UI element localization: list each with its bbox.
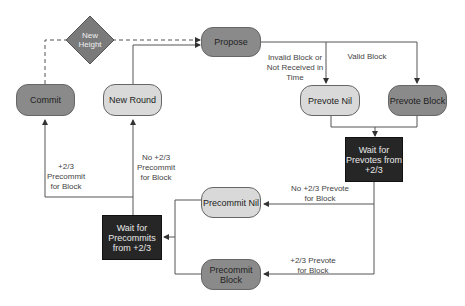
- label-invalid-block: Invalid Block or Not Received in Time: [258, 53, 332, 83]
- propose-node: Propose: [201, 27, 261, 57]
- prevote-block-node: Prevote Block: [388, 85, 447, 116]
- label-no-prevote: No +2/3 Prevote for Block: [282, 184, 358, 204]
- new-height-diamond: New Height: [66, 16, 114, 64]
- edge-commit-to-newheight: [45, 40, 68, 84]
- wait-prevotes-node: Wait for Prevotes from +2/3: [345, 137, 403, 182]
- prevote-nil-node: Prevote Nil: [300, 85, 360, 116]
- label-no-precommit: No +2/3 Precommit for Block: [134, 153, 178, 183]
- label-yes-prevote: +2/3 Prevote for Block: [280, 256, 346, 276]
- label-commit-precommit: +2/3 Precommit for Block: [44, 162, 88, 192]
- label-valid-block: Valid Block: [342, 52, 392, 62]
- wait-precommits-node: Wait for Precommits from +2/3: [102, 215, 162, 260]
- commit-node: Commit: [16, 84, 75, 116]
- edge-newround-to-propose: [133, 45, 200, 84]
- precommit-nil-node: Precommit Nil: [201, 187, 261, 218]
- edge-precommitnil-to-join: [175, 200, 201, 274]
- new-round-node: New Round: [103, 84, 162, 116]
- new-height-label: New Height: [66, 16, 114, 64]
- edge-prevotenil-to-wait: [331, 115, 417, 127]
- precommit-block-node: Precommit Block: [201, 259, 261, 290]
- edge-propose-to-prevoteblock: [326, 42, 417, 83]
